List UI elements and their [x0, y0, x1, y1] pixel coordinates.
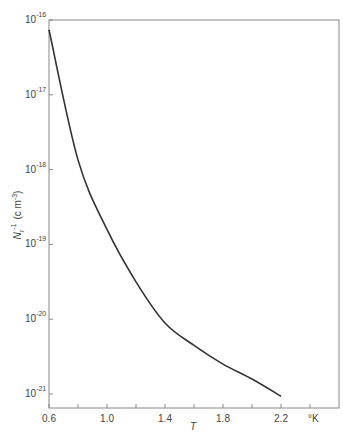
y-tick-label: 10-16 — [25, 11, 46, 25]
y-tick-label: 10-20 — [25, 310, 46, 324]
plot-frame — [49, 20, 339, 408]
chart-canvas: 10-1610-1710-1810-1910-2010-21 0.61.01.4… — [0, 0, 343, 436]
data-curve — [49, 30, 281, 397]
x-tick-label: 2.2 — [274, 413, 288, 424]
x-axis-label: T — [190, 421, 197, 432]
y-tick-label: 10-19 — [25, 235, 46, 249]
x-tick-label: 0.6 — [42, 413, 56, 424]
x-tick-label: 1.4 — [158, 413, 172, 424]
x-tick-label: 1.8 — [216, 413, 230, 424]
y-tick-label: 10-18 — [25, 161, 46, 175]
y-tick-label: 10-21 — [25, 385, 46, 399]
x-axis-ticks: 0.61.01.41.82.2 — [42, 404, 310, 424]
y-axis-label: Nr-1(c m-3) — [10, 191, 25, 240]
x-tick-label: 1.0 — [100, 413, 114, 424]
y-tick-label: 10-17 — [25, 86, 46, 100]
x-axis-unit: °K — [308, 413, 319, 424]
svg-text:Nr-1(c m-3): Nr-1(c m-3) — [10, 191, 25, 240]
